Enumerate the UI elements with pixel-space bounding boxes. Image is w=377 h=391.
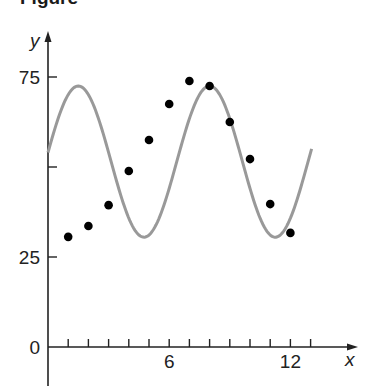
chart: y x 612 02575 [0,0,377,391]
y-axis-arrow-icon [45,31,52,42]
data-point [104,201,113,210]
axes: y x [28,30,358,386]
x-tick-label: 6 [164,351,175,372]
y-tick-label: 0 [29,337,40,358]
y-tick-label: 75 [19,67,40,88]
data-point [165,100,174,109]
data-point [226,118,235,127]
y-ticks: 02575 [19,67,57,358]
x-tick-label: 12 [280,351,301,372]
x-ticks: 612 [68,339,310,372]
data-point [286,229,295,238]
data-point [84,222,93,231]
data-point [266,200,275,209]
data-point [64,233,73,242]
y-tick-label: 25 [19,247,40,268]
data-point [125,167,134,176]
data-point [246,155,255,164]
y-axis-label: y [28,30,41,51]
data-point [145,136,154,145]
data-point [205,82,214,91]
sinusoidal-fit-curve [48,86,312,237]
x-axis-label: x [344,349,356,370]
data-point [185,77,194,86]
